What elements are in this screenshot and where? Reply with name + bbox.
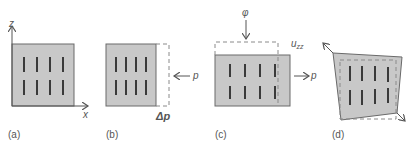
- force-phi-label: φ: [242, 7, 249, 18]
- compressed-block: [106, 44, 156, 106]
- force-p-label: p: [192, 70, 199, 81]
- caption-a: (a): [8, 129, 20, 140]
- caption-c: (c): [215, 129, 227, 140]
- panel-b: p Δp (b): [106, 44, 199, 140]
- caption-d: (d): [332, 129, 344, 140]
- sheared-block: [333, 53, 402, 120]
- panel-c: φ uzz p (c): [215, 7, 317, 140]
- force-p-label: p: [310, 70, 317, 81]
- shear-arrow-down-right-icon: [397, 113, 405, 121]
- original-outline: [156, 44, 169, 106]
- shear-arrow-up-left-icon: [323, 43, 333, 53]
- delta-p-label: Δp: [155, 110, 170, 122]
- strained-block: [215, 55, 290, 106]
- axis-x-label: x: [82, 109, 89, 120]
- deformation-diagram: z x (a) p Δp (b) φ uzz p (c): [0, 0, 413, 148]
- panel-d: (d): [323, 43, 405, 140]
- panel-a: z x (a): [8, 18, 89, 140]
- crystal-block: [12, 44, 74, 106]
- caption-b: (b): [106, 129, 118, 140]
- strain-label: uzz: [291, 38, 304, 50]
- axis-z-label: z: [8, 18, 14, 29]
